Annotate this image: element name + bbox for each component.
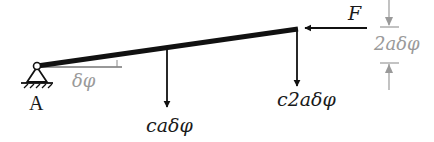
support-label-A: A [29, 92, 43, 115]
force-label-c2a: c2aδφ [277, 88, 336, 110]
force-label-F: F [348, 2, 361, 24]
dimension-label: 2aδφ [374, 33, 420, 54]
diagram-canvas [0, 0, 434, 142]
force-label-ca: caδφ [146, 114, 193, 136]
angle-label: δφ [72, 70, 95, 91]
pin-joint [34, 63, 41, 70]
